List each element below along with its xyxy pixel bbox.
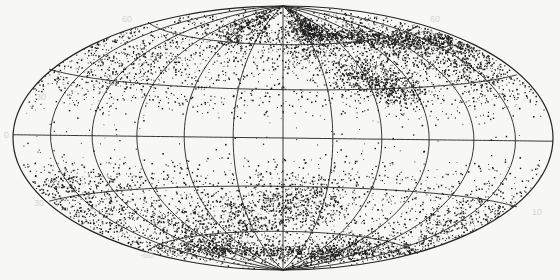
tick-label-left-0: 0: [4, 130, 9, 140]
tick-label-top-left-60: 60: [122, 14, 132, 24]
tick-label-bottom-m60: -60: [140, 250, 153, 260]
sky-map-figure: [0, 0, 560, 280]
tick-label-right-10: 10: [532, 207, 542, 217]
tick-label-top-right-60: 60: [430, 14, 440, 24]
tick-label-left-m30: 30: [34, 198, 44, 208]
graticule: [13, 6, 553, 270]
tick-label-left-30: 30: [36, 92, 46, 102]
